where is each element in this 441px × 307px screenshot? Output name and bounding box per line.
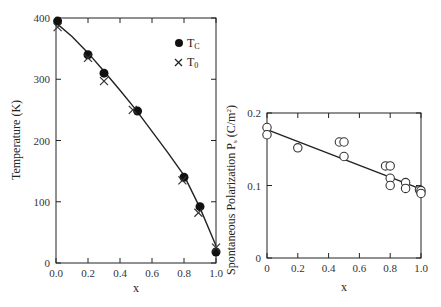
right-plot-frame: [267, 113, 421, 258]
x-tick-label: 0.6: [145, 267, 159, 279]
x-tick-label: 0.4: [113, 267, 127, 279]
right-x-axis-label: x: [341, 280, 347, 294]
x-tick-label: 0.2: [291, 262, 305, 274]
x-tick-label: 0: [264, 262, 270, 274]
right-y-axis-label: Spontaneous Polarization Ps (C/m2): [224, 105, 239, 275]
polarization-chart: 00.20.40.60.81.000.10.2 Spontaneous Pola…: [224, 105, 428, 294]
x-tick-label: 1.0: [209, 267, 223, 279]
y-tick-label: 200: [34, 135, 51, 147]
polarization-point: [263, 131, 271, 139]
polarization-point: [417, 189, 425, 197]
polarization-point: [401, 184, 409, 192]
right-data-points: [263, 123, 425, 197]
y-tick-label: 400: [34, 12, 51, 24]
left-y-axis-label: Temperature (K): [9, 100, 23, 180]
y-tick-label: 300: [34, 73, 51, 85]
legend-t0-label: T0: [187, 55, 198, 70]
y-tick-label: 100: [34, 196, 51, 208]
tc-point: [196, 202, 205, 211]
polarization-point: [340, 152, 348, 160]
tc-point: [180, 173, 189, 182]
x-tick-label: 0.4: [322, 262, 336, 274]
x-tick-label: 1.0: [414, 262, 428, 274]
x-tick-label: 0.2: [81, 267, 95, 279]
legend: TC T0: [175, 36, 200, 70]
figure-canvas: 0.00.20.40.60.81.00100200300400 Temperat…: [0, 0, 441, 307]
left-data-points: [53, 17, 220, 257]
polarization-point: [340, 138, 348, 146]
legend-t0-marker: [175, 59, 182, 66]
x-tick-label: 0.6: [353, 262, 367, 274]
y-tick-label: 0: [45, 257, 51, 269]
x-tick-label: 0.8: [383, 262, 397, 274]
y-tick-label: 0.2: [247, 107, 261, 119]
t0-point: [100, 77, 108, 85]
left-x-axis-label: x: [133, 281, 139, 295]
legend-tc-marker: [175, 39, 183, 47]
tc-point: [100, 69, 109, 78]
polarization-point: [386, 181, 394, 189]
legend-tc-label: TC: [187, 36, 200, 51]
temperature-chart: 0.00.20.40.60.81.00100200300400 Temperat…: [9, 12, 223, 295]
left-axis-ticks: 0.00.20.40.60.81.00100200300400: [34, 12, 224, 279]
polarization-point: [294, 144, 302, 152]
tc-point: [212, 247, 221, 256]
x-tick-label: 0.0: [49, 267, 63, 279]
x-tick-label: 0.8: [177, 267, 191, 279]
polarization-point: [386, 162, 394, 170]
y-tick-label: 0: [256, 252, 262, 264]
y-tick-label: 0.1: [247, 180, 261, 192]
